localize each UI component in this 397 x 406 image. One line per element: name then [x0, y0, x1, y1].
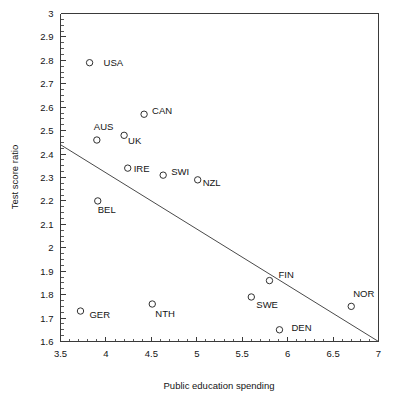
data-point-label: CAN: [152, 105, 172, 116]
data-point-marker: [125, 165, 131, 171]
x-tick-label: 5.5: [236, 348, 249, 359]
data-point: NZL: [194, 177, 220, 188]
data-point-group: USAAUSCANUKIRESWINZLBELGERNTHSWEFINDENNO…: [77, 57, 374, 333]
data-point-marker: [266, 277, 272, 283]
data-point: NTH: [149, 301, 175, 319]
y-tick-label: 2.3: [40, 172, 53, 183]
x-tick-label: 6: [285, 348, 290, 359]
data-point: GER: [77, 308, 110, 320]
x-axis-title: Public education spending: [164, 380, 275, 391]
y-tick-label: 2: [48, 242, 53, 253]
y-tick-label: 2.2: [40, 195, 53, 206]
data-point: SWE: [248, 294, 278, 310]
chart-canvas: 3.544.555.566.57 1.61.71.81.922.12.22.32…: [0, 0, 397, 406]
y-tick-label: 2.6: [40, 102, 53, 113]
data-point: USA: [86, 57, 123, 68]
data-point-marker: [86, 60, 92, 66]
data-point: FIN: [266, 269, 294, 284]
x-axis-tick-labels: 3.544.555.566.57: [54, 348, 381, 359]
data-point-label: FIN: [278, 269, 293, 280]
data-point-label: IRE: [134, 163, 150, 174]
y-axis-tick-labels: 1.61.71.81.922.12.22.32.42.52.62.72.82.9…: [40, 8, 53, 347]
data-point-label: NOR: [353, 288, 374, 299]
data-point: IRE: [125, 163, 150, 174]
data-point-marker: [160, 172, 166, 178]
data-point-marker: [348, 303, 354, 309]
y-tick-label: 1.9: [40, 266, 53, 277]
y-tick-label: 3: [48, 8, 53, 19]
x-tick-label: 3.5: [54, 348, 67, 359]
y-axis-title: Test score ratio: [9, 145, 20, 209]
data-point: NOR: [348, 288, 374, 309]
data-point-marker: [121, 132, 127, 138]
data-point-label: SWI: [171, 166, 189, 177]
data-point-label: AUS: [94, 121, 114, 132]
data-point: CAN: [141, 105, 172, 117]
y-tick-label: 2.9: [40, 31, 53, 42]
y-tick-label: 2.8: [40, 55, 53, 66]
data-point: AUS: [94, 121, 114, 143]
data-point-label: BEL: [98, 204, 116, 215]
data-point-label: NZL: [203, 177, 221, 188]
y-tick-label: 1.7: [40, 313, 53, 324]
data-point-label: NTH: [155, 308, 175, 319]
y-tick-label: 2.5: [40, 125, 53, 136]
y-tick-label: 2.4: [40, 149, 53, 160]
data-point-marker: [141, 111, 147, 117]
y-axis-major-ticks: [61, 14, 66, 342]
y-tick-label: 1.6: [40, 336, 53, 347]
x-tick-label: 7: [376, 348, 381, 359]
data-point: BEL: [95, 198, 116, 215]
data-point: UK: [121, 132, 142, 146]
data-point: DEN: [276, 322, 311, 333]
data-point-marker: [276, 327, 282, 333]
data-point-marker: [77, 308, 83, 314]
x-tick-label: 6.5: [326, 348, 339, 359]
x-tick-label: 4.5: [145, 348, 158, 359]
x-axis-major-ticks: [61, 337, 379, 342]
data-point-label: GER: [89, 309, 110, 320]
y-tick-label: 1.8: [40, 289, 53, 300]
data-point-label: USA: [104, 57, 124, 68]
data-point: SWI: [160, 166, 189, 178]
data-point-marker: [194, 177, 200, 183]
x-tick-label: 5: [194, 348, 199, 359]
scatter-chart: 3.544.555.566.57 1.61.71.81.922.12.22.32…: [0, 0, 397, 406]
y-tick-label: 2.7: [40, 78, 53, 89]
data-point-marker: [149, 301, 155, 307]
data-point-marker: [248, 294, 254, 300]
data-point-label: DEN: [291, 322, 311, 333]
data-point-label: UK: [128, 135, 142, 146]
y-tick-label: 2.1: [40, 219, 53, 230]
x-tick-label: 4: [103, 348, 108, 359]
data-point-marker: [94, 137, 100, 143]
data-point-label: SWE: [256, 299, 278, 310]
